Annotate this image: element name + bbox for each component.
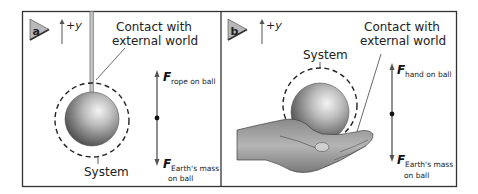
panel-b-force-down-subscript-2: on ball	[404, 171, 429, 180]
free-body-diagram-figure: a +y Contact with external world System …	[0, 0, 478, 194]
panel-b-force-down-subscript-1: Earth's mass	[405, 160, 453, 169]
panel-b-axis-label: +y	[266, 19, 282, 32]
panel-b-badge-letter: b	[231, 25, 239, 38]
panel-a-badge-letter: a	[33, 25, 40, 38]
panel-a-force-down-subscript-1: Earth's mass	[171, 164, 219, 173]
panel-a-system-label: System	[84, 165, 129, 179]
panel-a-force-down-subscript-2: on ball	[168, 174, 193, 183]
panel-a-contact-label-line2: external world	[112, 34, 198, 48]
point-particle	[390, 112, 395, 117]
panel-a-force-up-subscript: rope on ball	[171, 77, 216, 86]
panel-b-force-up-subscript: hand on ball	[405, 70, 452, 79]
panel-a-axis-label: +y	[66, 19, 82, 32]
panel-b-system-label: System	[303, 48, 348, 62]
thumbnail	[315, 143, 329, 152]
panel-b-contact-label-line1: Contact with	[364, 20, 440, 34]
rope	[90, 12, 95, 93]
panel-a-contact-label-line1: Contact with	[116, 20, 192, 34]
point-particle	[155, 116, 160, 121]
panel-b-contact-label-line2: external world	[360, 34, 446, 48]
panel-a-ball	[65, 92, 119, 146]
